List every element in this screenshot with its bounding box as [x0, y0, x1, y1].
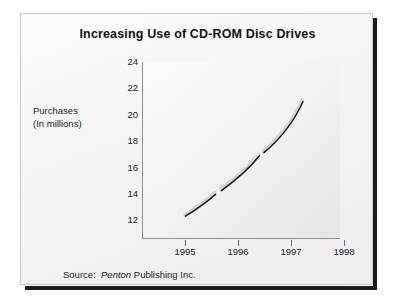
figure-panel: Increasing Use of CD-ROM Disc Drives Pur…: [20, 13, 373, 285]
source-publisher-name: Penton: [101, 269, 131, 280]
x-tick-label-1995: 1995: [165, 246, 205, 257]
panel-drop-shadow-bottom: [25, 286, 377, 290]
data-line-highlight-segment-1: [185, 193, 215, 215]
y-tick-label-14: 14: [116, 189, 138, 199]
y-tick-label-24: 24: [116, 57, 138, 67]
x-tick-label-1997: 1997: [271, 246, 311, 257]
y-tick-label-18: 18: [116, 136, 138, 146]
y-tick-label-12: 12: [116, 215, 138, 225]
y-axis-caption: Purchases (In millions): [33, 105, 82, 130]
x-tick-label-1998: 1998: [324, 246, 364, 257]
y-tick-label-20: 20: [116, 110, 138, 120]
source-note: Source: Penton Publishing Inc.: [63, 269, 196, 280]
x-tick-labels: 1995 1996 1997 1998: [142, 246, 342, 260]
plot-area: [142, 62, 340, 239]
panel-drop-shadow-right: [373, 18, 377, 290]
data-line-highlight-segment-3: [263, 100, 302, 151]
y-axis-caption-line-2: (In millions): [33, 118, 82, 131]
x-tick-label-1996: 1996: [218, 246, 258, 257]
y-tick-label-22: 22: [116, 83, 138, 93]
y-tick-labels: 24 22 20 18 16 14 12: [111, 62, 138, 239]
y-axis-caption-line-1: Purchases: [33, 105, 82, 118]
chart-title: Increasing Use of CD-ROM Disc Drives: [21, 27, 374, 41]
data-line-chart: [143, 62, 341, 239]
data-line-highlight-segment-2: [221, 154, 259, 189]
source-prefix: Source:: [63, 269, 96, 280]
y-tick-label-16: 16: [116, 163, 138, 173]
source-suffix: Publishing Inc.: [134, 269, 196, 280]
